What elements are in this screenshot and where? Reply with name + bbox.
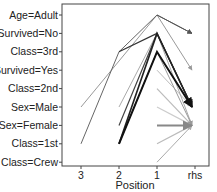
y-tick-label: Age=Adult [9, 9, 58, 21]
rule-line [157, 125, 192, 162]
y-tick-label: Survived=No [0, 27, 58, 39]
y-tick-label: Class=1st [12, 137, 58, 149]
y-tick-label: Survived=Yes [0, 64, 58, 76]
rule-lines [81, 15, 192, 162]
rule-line [157, 107, 192, 125]
y-tick-label: Sex=Female [0, 119, 58, 131]
x-tick-label: rhs [188, 169, 203, 181]
x-axis-title: Position [115, 179, 154, 191]
y-tick-label: Class=Crew [1, 156, 58, 168]
y-tick-label: Class=3rd [10, 45, 58, 57]
x-tick-label: 3 [78, 169, 84, 181]
rule-line [157, 125, 192, 143]
y-axis: Age=AdultSurvived=NoClass=3rdSurvived=Ye… [0, 9, 62, 168]
x-tick-label: 1 [154, 169, 160, 181]
parallel-coordinates-chart: Age=AdultSurvived=NoClass=3rdSurvived=Ye… [0, 0, 217, 192]
y-tick-label: Sex=Male [11, 101, 58, 113]
y-tick-label: Class=2nd [8, 82, 58, 94]
